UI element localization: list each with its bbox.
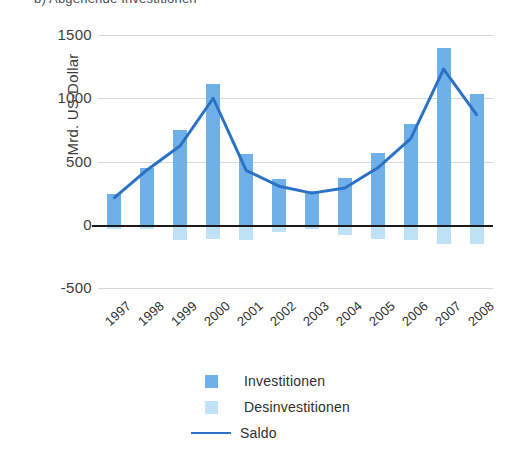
y-tick-label: 0 [40, 216, 92, 233]
x-tick-label: 2000 [201, 298, 233, 329]
x-tick-label: 2007 [432, 298, 464, 329]
bar-investitionen[interactable] [437, 48, 451, 225]
legend-line-marker [191, 432, 231, 434]
bar-column[interactable] [107, 35, 121, 288]
bar-desinvestitionen[interactable] [404, 225, 418, 240]
bar-investitionen[interactable] [173, 130, 187, 225]
bar-investitionen[interactable] [470, 94, 484, 224]
x-tick-label: 1998 [135, 298, 167, 329]
x-tick-label: 1997 [102, 298, 134, 329]
x-tick-label: 2006 [399, 298, 431, 329]
bar-investitionen[interactable] [404, 124, 418, 225]
bar-investitionen[interactable] [107, 194, 121, 224]
bar-desinvestitionen[interactable] [206, 225, 220, 239]
x-tick-label: 2001 [234, 298, 266, 329]
bar-desinvestitionen[interactable] [437, 225, 451, 244]
bar-investitionen[interactable] [371, 153, 385, 225]
legend-label: Desinvestitionen [244, 399, 350, 415]
bar-group [98, 35, 493, 288]
bar-column[interactable] [338, 35, 352, 288]
legend-label: Saldo [240, 425, 277, 441]
legend-label: Investitionen [244, 373, 325, 389]
bar-column[interactable] [404, 35, 418, 288]
legend-item[interactable]: Desinvestitionen [205, 394, 350, 420]
bar-investitionen[interactable] [272, 179, 286, 225]
bar-column[interactable] [272, 35, 286, 288]
bar-investitionen[interactable] [206, 84, 220, 224]
x-tick-label: 2005 [366, 298, 398, 329]
figure-heading: b) Abgehende Investitionen [34, 0, 197, 6]
bar-desinvestitionen[interactable] [470, 225, 484, 244]
x-tick-label: 1999 [168, 298, 200, 329]
bar-column[interactable] [239, 35, 253, 288]
legend-color-swatch [205, 375, 218, 388]
bar-investitionen[interactable] [305, 191, 319, 225]
bar-column[interactable] [437, 35, 451, 288]
bar-column[interactable] [371, 35, 385, 288]
x-tick-label: 2004 [333, 298, 365, 329]
x-axis-tick-labels: 1997199819992000200120022003200420052006… [98, 292, 493, 344]
y-tick-label: -500 [40, 279, 92, 296]
gridline [98, 288, 493, 289]
bar-column[interactable] [305, 35, 319, 288]
zero-axis-line [92, 225, 493, 227]
y-tick-label: 500 [40, 153, 92, 170]
bar-column[interactable] [173, 35, 187, 288]
bar-column[interactable] [140, 35, 154, 288]
bar-column[interactable] [206, 35, 220, 288]
bar-investitionen[interactable] [239, 154, 253, 225]
x-tick-label: 2003 [300, 298, 332, 329]
bar-investitionen[interactable] [338, 178, 352, 225]
bar-column[interactable] [470, 35, 484, 288]
y-axis-tick-labels: 150010005000-500 [36, 35, 92, 288]
chart-legend: InvestitionenDesinvestitionenSaldo [205, 368, 350, 446]
figure-root: b) Abgehende Investitionen Mrd. US-Dolla… [0, 0, 515, 467]
legend-color-swatch [205, 401, 218, 414]
bar-desinvestitionen[interactable] [239, 225, 253, 240]
bar-desinvestitionen[interactable] [371, 225, 385, 239]
legend-item[interactable]: Investitionen [205, 368, 350, 394]
x-tick-label: 2002 [267, 298, 299, 329]
bar-desinvestitionen[interactable] [173, 225, 187, 240]
y-tick-label: 1500 [40, 26, 92, 43]
bar-investitionen[interactable] [140, 168, 154, 225]
plot-area [98, 35, 493, 288]
y-tick-label: 1000 [40, 89, 92, 106]
legend-item[interactable]: Saldo [205, 420, 350, 446]
x-tick-label: 2008 [464, 298, 496, 329]
